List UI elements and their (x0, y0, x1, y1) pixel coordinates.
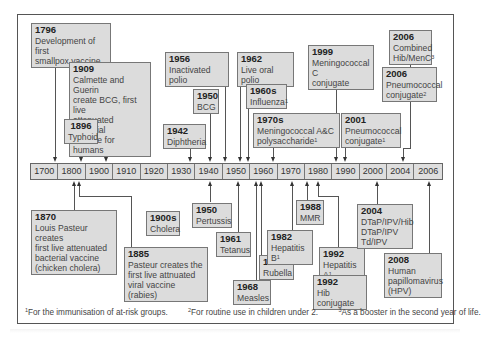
connector-line (79, 196, 131, 197)
event-text: Cholera (150, 224, 176, 234)
connector-line (248, 106, 249, 158)
event-year: 1999 (312, 47, 370, 58)
arrow-down-icon (246, 157, 250, 162)
event-text: Inactivated polio (169, 65, 225, 85)
connector-line (307, 185, 308, 200)
arrow-down-icon (343, 157, 347, 162)
arrow-up-icon (254, 181, 258, 186)
event-text-main: Meningococcal A&C polysaccharide (257, 126, 334, 146)
event-year: 1970s (257, 115, 336, 126)
event-box-1982: 1982 Hepatitis B1 (267, 230, 313, 265)
footnote-mark: 1 (382, 137, 385, 143)
event-box-2006-pneumococcal: 2006 Pneumococcal conjugate2 (382, 67, 437, 102)
event-year: 1961 (220, 234, 247, 245)
arrow-up-icon (427, 181, 431, 186)
footnote-mark: 1 (285, 98, 288, 104)
footnote-2: 2For routine use in children under 2. (188, 308, 318, 317)
event-year: 1988 (300, 202, 320, 213)
footnote-mark: 1 (25, 307, 28, 313)
event-text: Meningococcal C conjugate (312, 58, 370, 88)
event-year: 1960s (250, 86, 283, 97)
event-box-1796: 1796 Development of first smallpox vacci… (31, 23, 111, 68)
footnote-text: As a booster in the second year of life. (341, 308, 480, 317)
axis-cell: 2004 (387, 164, 414, 179)
event-year: 1796 (35, 25, 107, 36)
event-text: Human papillomavirus (HPV) (388, 266, 438, 296)
footnote-3: 3As a booster in the second year of life… (338, 308, 480, 317)
event-box-1896: 1896 Typhoid (64, 119, 98, 144)
footnotes: 1For the immunisation of at-risk groups.… (25, 308, 485, 317)
event-year: 1950 (196, 205, 228, 216)
event-text: Influenza1 (250, 97, 283, 107)
event-box-1900s: 1900s Cholera (146, 211, 180, 236)
arrow-up-icon (305, 181, 309, 186)
connector-line (238, 185, 239, 232)
connector-line (403, 148, 411, 149)
footnote-mark: 3 (431, 54, 434, 60)
arrow-down-icon (79, 157, 83, 162)
axis-cell: 1800 (58, 164, 85, 179)
arrow-down-icon (334, 157, 338, 162)
connector-line (292, 185, 293, 231)
event-text: Typhoid (68, 132, 94, 142)
event-text-main: Combined Hib/MenC (393, 43, 432, 63)
event-box-1988: 1988 MMR (296, 200, 324, 225)
event-box-2006-combined: 2006 Combined Hib/MenC3 (389, 30, 432, 65)
event-box-1870: 1870 Louis Pasteur creates first live at… (31, 210, 117, 275)
bottom-shadow (10, 329, 460, 333)
arrow-down-icon (401, 157, 405, 162)
event-box-1960s: 1960s Influenza1 (246, 84, 287, 109)
axis-cell: 1940 (195, 164, 222, 179)
event-box-1950-pertussis: 1950 Pertussis (192, 203, 232, 228)
axis-cell: 1970 (278, 164, 305, 179)
event-box-2008: 2008 Human papillomavirus (HPV) (384, 253, 442, 298)
connector-line (256, 185, 257, 287)
arrow-up-icon (316, 181, 320, 186)
event-year: 1992 (323, 249, 361, 260)
event-text: MMR (300, 213, 320, 223)
axis-cell: 1950 (223, 164, 250, 179)
event-text: Hib conjugate (317, 288, 363, 308)
axis-cell: 1700 (31, 164, 58, 179)
event-year: 1942 (167, 126, 202, 137)
arrow-up-icon (208, 181, 212, 186)
event-text: Development of first smallpox vaccine (35, 36, 107, 66)
arrow-down-icon (188, 157, 192, 162)
footnote-text: For routine use in children under 2. (191, 308, 318, 317)
arrow-up-icon (77, 181, 81, 186)
event-year: 2001 (345, 115, 397, 126)
footnote-text: For the immunisation of at-risk groups. (28, 308, 168, 317)
event-box-1885: 1885 Pasteur creates the first live attn… (124, 247, 208, 302)
footnote-mark: 2 (423, 91, 426, 97)
axis-cell: 1960 (250, 164, 277, 179)
event-text-main: Influenza (250, 97, 285, 107)
arrow-up-icon (375, 181, 379, 186)
connector-line (410, 99, 411, 148)
axis-cell: 2006 (414, 164, 441, 179)
connector-line (210, 111, 211, 158)
event-text: Tetanus (220, 245, 247, 255)
event-year: 2008 (388, 255, 438, 266)
connector-line (377, 185, 378, 205)
footnote-mark: 2 (188, 307, 191, 313)
event-box-1942: 1942 Diphtheria (163, 124, 206, 149)
axis-cell: 1900 (86, 164, 113, 179)
event-text: Meningococcal A&C polysaccharide1 (257, 126, 336, 146)
event-year: 1909 (73, 64, 147, 75)
event-year: 1885 (128, 249, 204, 260)
event-box-2004: 2004 DTaP/IPV/Hib DTaP/IPV Td/IPV (357, 204, 413, 249)
event-text: DTaP/IPV/Hib DTaP/IPV Td/IPV (361, 217, 409, 247)
footnote-mark: 3 (338, 307, 341, 313)
event-text-main: Pneumococcal conjugate (345, 126, 401, 146)
event-text: Hepatitis B1 (271, 243, 309, 263)
event-year: 1968 (237, 282, 267, 293)
connector-line (131, 196, 132, 247)
axis-cell: 2000 (360, 164, 387, 179)
connector-line (318, 196, 339, 197)
event-box-1999: 1999 Meningococcal C conjugate (308, 45, 374, 90)
event-text: Pneumococcal conjugate1 (345, 126, 397, 146)
axis-cell: 1930 (168, 164, 195, 179)
event-text: Pneumococcal conjugate2 (386, 80, 433, 100)
connector-line (429, 185, 430, 255)
event-text: Diphtheria (167, 137, 202, 147)
